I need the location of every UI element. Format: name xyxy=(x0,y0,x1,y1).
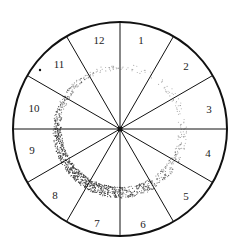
sector-label: 8 xyxy=(52,189,58,201)
spoke-line xyxy=(120,76,213,130)
center-hub xyxy=(118,127,123,132)
sector-label: 3 xyxy=(206,103,212,115)
spoke-line xyxy=(27,76,120,130)
sector-label: 2 xyxy=(183,60,189,72)
spoke-line xyxy=(27,129,120,183)
sector-label: 10 xyxy=(29,102,41,114)
sector-label: 12 xyxy=(94,34,105,46)
sector-label: 9 xyxy=(29,144,35,156)
sector-label: 7 xyxy=(94,217,100,229)
sector-label: 5 xyxy=(183,190,189,202)
sector-wheel-diagram: 121234567891011 xyxy=(0,0,235,252)
sector-label: 4 xyxy=(205,147,211,159)
spoke-line xyxy=(120,36,174,129)
marker-dot xyxy=(39,69,41,71)
sector-label: 11 xyxy=(54,58,65,70)
sector-label: 1 xyxy=(138,34,144,46)
sector-label: 6 xyxy=(140,218,146,230)
spoke-line xyxy=(120,129,213,183)
